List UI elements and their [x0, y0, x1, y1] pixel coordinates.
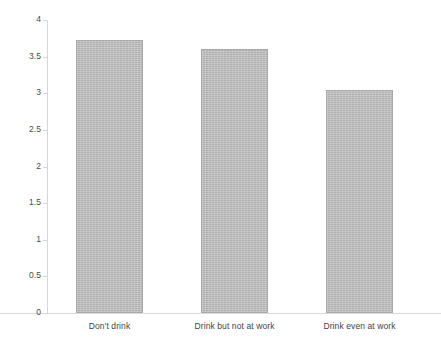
y-axis-tick-label-wrap: 0: [0, 313, 41, 314]
x-axis-category-label: Drink even at work: [280, 322, 440, 331]
y-axis-tick-label: 3.5: [3, 52, 41, 61]
y-axis-tick-label: 1.5: [3, 198, 41, 207]
bar: [76, 40, 143, 313]
y-axis-tick-label: 4: [3, 15, 41, 24]
y-axis-tick-label-wrap: 3.5: [0, 57, 41, 58]
y-axis-tick-label-wrap: 2.5: [0, 130, 41, 131]
y-axis-tick-label: 3: [3, 88, 41, 97]
y-axis-tick-label: 0: [3, 308, 41, 317]
y-axis-tick-label-wrap: 2: [0, 167, 41, 168]
bar: [201, 49, 268, 313]
y-axis-tick-label-wrap: 1: [0, 240, 41, 241]
y-axis-tick-label: 0.5: [3, 271, 41, 280]
y-axis-tick: [43, 313, 48, 314]
y-axis-tick-label-wrap: 3: [0, 93, 41, 94]
y-axis-tick-label-wrap: 0.5: [0, 276, 41, 277]
y-axis-tick-label-wrap: 4: [0, 20, 41, 21]
y-axis-tick-label: 2: [3, 162, 41, 171]
plot-area: [47, 20, 422, 313]
bar: [326, 90, 393, 313]
y-axis-tick-label: 1: [3, 235, 41, 244]
y-axis-tick-label: 2.5: [3, 125, 41, 134]
x-axis-line: [0, 313, 441, 314]
bar-chart: 00.511.522.533.54 Don't drinkDrink but n…: [0, 0, 441, 348]
y-axis-tick-label-wrap: 1.5: [0, 203, 41, 204]
